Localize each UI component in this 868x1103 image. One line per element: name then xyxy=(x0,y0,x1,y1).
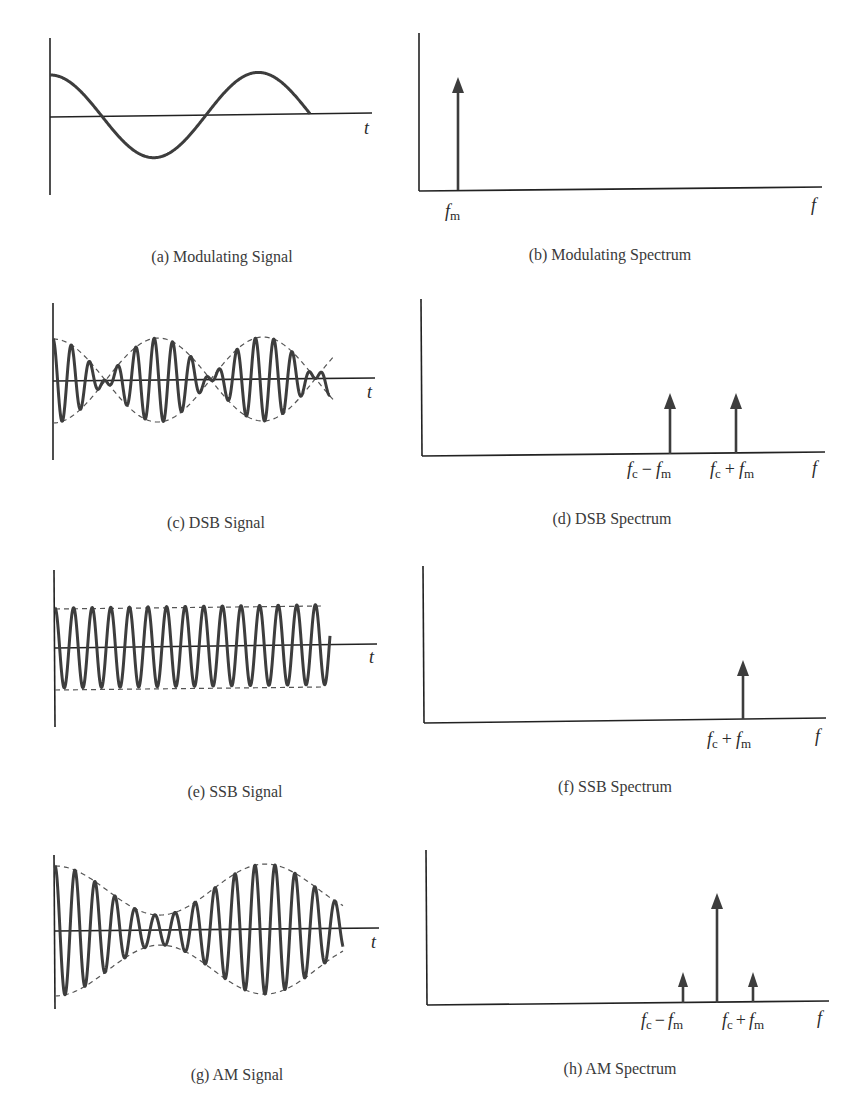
fc-plus-fm-label: fc+fm xyxy=(710,459,754,481)
f-axis xyxy=(422,452,825,456)
arrowhead-icon xyxy=(748,972,758,987)
y-axis xyxy=(54,570,55,727)
f-axis xyxy=(419,187,822,191)
y-axis xyxy=(423,566,424,723)
caption-b: (b) Modulating Spectrum xyxy=(529,246,692,264)
arrowhead-icon xyxy=(452,77,464,93)
t-axis-label: t xyxy=(367,382,373,402)
arrowhead-icon xyxy=(664,393,676,409)
t-axis-label: t xyxy=(369,647,375,667)
t-axis-label: t xyxy=(371,932,377,952)
caption-f: (f) SSB Spectrum xyxy=(558,778,672,796)
modulation-figure: t (a) Modulating Signal fm f (b) Modulat… xyxy=(0,0,868,1103)
f-axis xyxy=(424,718,826,723)
panel-c-dsb-signal: t (c) DSB Signal xyxy=(53,303,375,532)
y-axis xyxy=(426,850,427,1005)
caption-h: (h) AM Spectrum xyxy=(564,1060,677,1078)
fm-label: fm xyxy=(445,201,460,223)
caption-c: (c) DSB Signal xyxy=(167,514,265,532)
t-axis-label: t xyxy=(364,118,370,138)
f-axis-label: f xyxy=(815,726,823,746)
arrowhead-icon xyxy=(737,660,749,676)
f-axis-label: f xyxy=(812,458,820,478)
f-axis-label: f xyxy=(817,1008,825,1028)
panel-h-am-spectrum: fc−fm fc+fm f (h) AM Spectrum xyxy=(426,850,829,1078)
lower-envelope xyxy=(55,945,343,996)
panel-a-modulating-signal: t (a) Modulating Signal xyxy=(50,38,372,266)
caption-e: (e) SSB Signal xyxy=(187,783,283,801)
lower-envelope xyxy=(55,687,323,690)
f-axis xyxy=(427,1001,829,1005)
fc-minus-fm-label: fc−fm xyxy=(641,1010,683,1032)
panel-d-dsb-spectrum: fc−fm fc+fm f (d) DSB Spectrum xyxy=(421,299,825,528)
arrowhead-icon xyxy=(678,972,688,987)
upper-envelope xyxy=(55,606,323,609)
panel-b-modulating-spectrum: fm f (b) Modulating Spectrum xyxy=(419,33,822,264)
y-axis xyxy=(421,299,422,456)
caption-a: (a) Modulating Signal xyxy=(151,248,293,266)
panel-f-ssb-spectrum: fc+fm f (f) SSB Spectrum xyxy=(423,566,826,796)
arrowhead-icon xyxy=(711,893,723,909)
fc-plus-fm-label: fc+fm xyxy=(707,729,751,751)
caption-g: (g) AM Signal xyxy=(191,1066,284,1084)
panel-e-ssb-signal: t (e) SSB Signal xyxy=(54,570,377,801)
fc-plus-fm-label: fc+fm xyxy=(722,1010,764,1032)
panel-g-am-signal: t (g) AM Signal xyxy=(54,855,379,1084)
f-axis-label: f xyxy=(811,195,819,215)
caption-d: (d) DSB Spectrum xyxy=(552,510,672,528)
y-axis xyxy=(54,855,55,1009)
fc-minus-fm-label: fc−fm xyxy=(627,459,671,481)
arrowhead-icon xyxy=(730,393,742,409)
